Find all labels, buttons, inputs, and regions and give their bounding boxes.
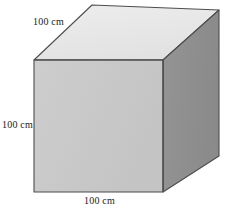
dimension-label-top: 100 cm — [33, 16, 64, 27]
cube-figure: 100 cm 100 cm 100 cm — [0, 0, 226, 210]
dimension-label-bottom: 100 cm — [84, 195, 115, 206]
cube-front-face — [34, 60, 163, 192]
cube-illustration — [0, 0, 226, 210]
dimension-label-left: 100 cm — [2, 119, 33, 130]
